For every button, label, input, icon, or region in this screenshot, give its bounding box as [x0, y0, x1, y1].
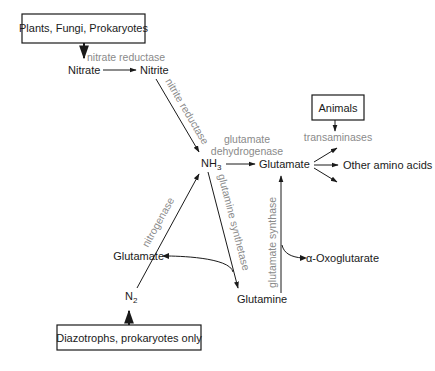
- glutamate-joins-synthetase-curve: [166, 256, 233, 272]
- nitrogen-pathway-diagram: Plants, Fungi, Prokaryotes nitrate reduc…: [0, 0, 435, 371]
- nitrogenase-label: nitrogenase: [139, 195, 176, 249]
- plants-box-label: Plants, Fungi, Prokaryotes: [19, 22, 149, 34]
- other-amino-acids-node: Other amino acids: [343, 159, 433, 171]
- glutamate-dehydrogenase-label-line2: dehydrogenase: [211, 145, 284, 157]
- nitrate-reductase-label: nitrate reductase: [87, 51, 165, 63]
- oxoglutarate-joins-synthase-curve: [282, 245, 302, 258]
- glutamate-dehydrogenase-label-line1: glutamate: [224, 133, 270, 145]
- animals-box: Animals: [312, 95, 364, 120]
- animals-box-label: Animals: [318, 102, 358, 114]
- nitrite-node: Nitrite: [140, 64, 169, 76]
- glutamate-to-aa-up-arrow: [314, 148, 337, 162]
- glutamate-node: Glutamate: [259, 158, 310, 170]
- diazotrophs-box-label: Diazotrophs, prokaryotes only: [56, 332, 202, 344]
- transaminases-label: transaminases: [304, 131, 372, 143]
- glutamine-node: Glutamine: [237, 293, 287, 305]
- nitrate-node: Nitrate: [68, 64, 100, 76]
- plants-fungi-prokaryotes-box: Plants, Fungi, Prokaryotes: [19, 14, 149, 43]
- n2-node: N2: [125, 290, 138, 305]
- diazotrophs-box: Diazotrophs, prokaryotes only: [56, 325, 202, 350]
- glutamine-synthetase-label: glutamine synthetase: [216, 172, 253, 271]
- nitrite-reductase-label: nitrite reductase: [163, 76, 211, 147]
- alpha-oxoglutarate-node: α-Oxoglutarate: [306, 252, 379, 264]
- glutamate-to-aa-down-arrow: [314, 168, 337, 182]
- glutamate-synthase-label: glutamate synthase: [266, 197, 278, 288]
- nh3-node: NH3: [201, 157, 222, 172]
